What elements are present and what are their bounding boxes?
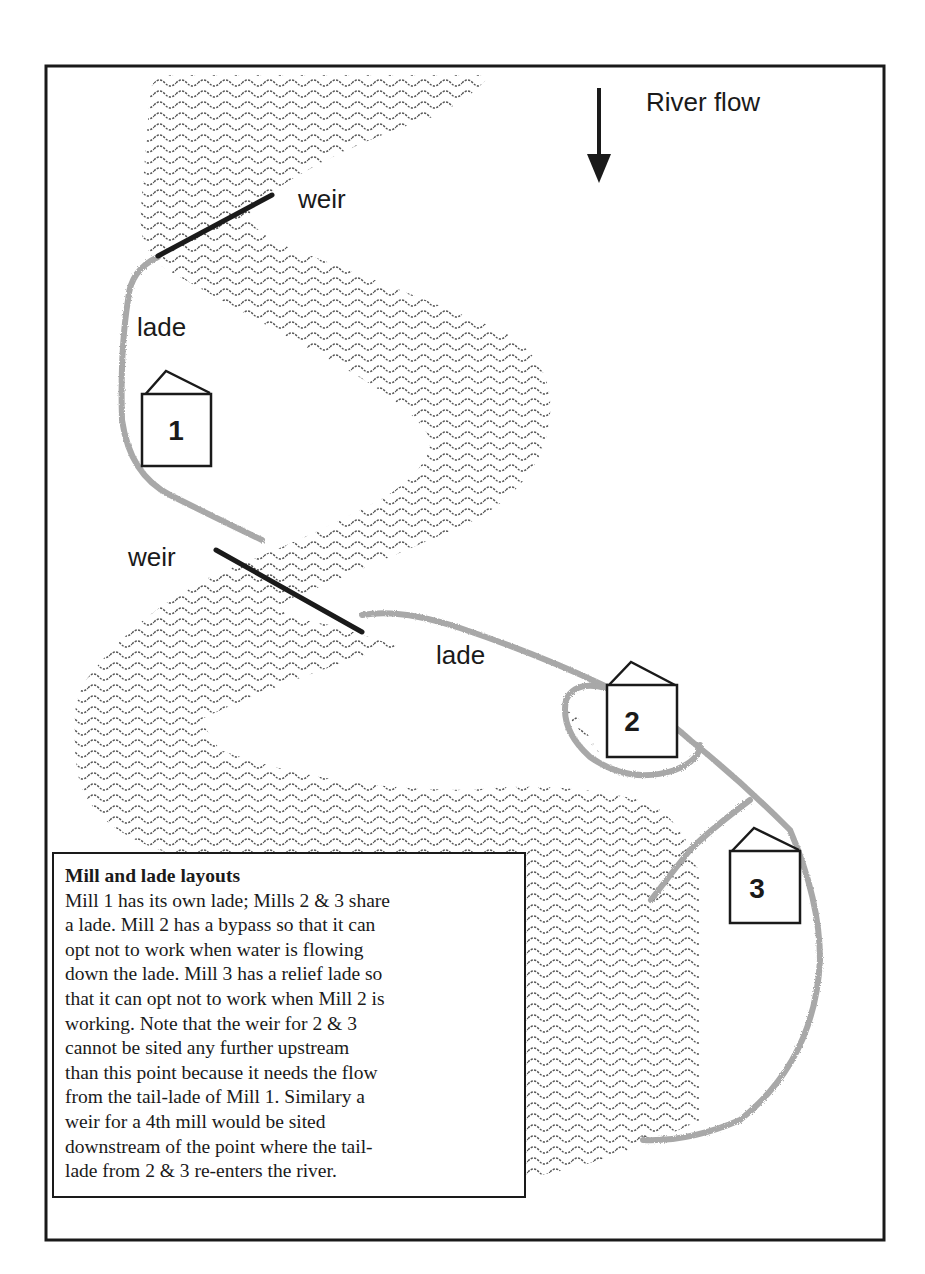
river-flow-label: River flow	[646, 87, 760, 117]
caption-line: down the lade. Mill 3 has a relief lade …	[65, 962, 514, 987]
caption-line: a lade. Mill 2 has a bypass so that it c…	[65, 913, 514, 938]
mill-3-number: 3	[749, 873, 765, 904]
caption-box: Mill and lade layouts Mill 1 has its own…	[52, 852, 526, 1198]
caption-line: opt not to work when water is flowing	[65, 938, 514, 963]
caption-line: downstream of the point where the tail-	[65, 1135, 514, 1160]
caption-line: than this point because it needs the flo…	[65, 1061, 514, 1086]
weir-1-label: weir	[297, 184, 346, 214]
lade-2-label: lade	[436, 640, 485, 670]
caption-line: that it can opt not to work when Mill 2 …	[65, 987, 514, 1012]
caption-line: weir for a 4th mill would be sited	[65, 1110, 514, 1135]
mill-2-number: 2	[624, 706, 640, 737]
weir-2-label: weir	[127, 542, 176, 572]
caption-line: Mill 1 has its own lade; Mills 2 & 3 sha…	[65, 889, 514, 914]
caption-body: Mill 1 has its own lade; Mills 2 & 3 sha…	[65, 889, 514, 1184]
mill-1-number: 1	[168, 415, 184, 446]
caption-line: cannot be sited any further upstream	[65, 1036, 514, 1061]
caption-line: from the tail-lade of Mill 1. Similary a	[65, 1085, 514, 1110]
caption-line: lade from 2 & 3 re-enters the river.	[65, 1159, 514, 1184]
caption-line: working. Note that the weir for 2 & 3	[65, 1012, 514, 1037]
caption-title: Mill and lade layouts	[65, 864, 514, 889]
lade-1-label: lade	[137, 312, 186, 342]
mill-2-icon: 2	[607, 662, 677, 757]
